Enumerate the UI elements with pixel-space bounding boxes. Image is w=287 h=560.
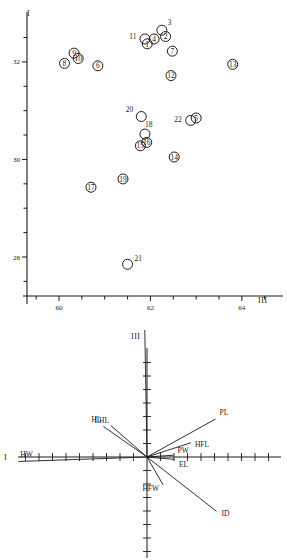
data-point: 22 [174, 115, 196, 125]
data-point-label: 4 [152, 35, 156, 44]
vector-label: ID [222, 509, 230, 518]
vector-axes [18, 348, 281, 558]
vector-line [103, 426, 147, 457]
vector-label: HFW [142, 484, 160, 493]
vector-line [111, 426, 147, 457]
data-point: 13 [228, 59, 238, 69]
scatter-y-tick-label: 30 [13, 156, 21, 164]
scatter-axes: 283032606264 [13, 12, 283, 312]
data-point-label: 14 [170, 153, 178, 162]
vector-line [18, 457, 147, 461]
vector-item: HW [18, 450, 147, 461]
scatter-points-group: 12345678910111213141516171819202122 [59, 18, 237, 269]
data-point-label: 21 [135, 254, 143, 263]
scatter-x-axis-label: III [258, 296, 268, 305]
data-point-label: 19 [119, 175, 127, 184]
vector-label: PL [220, 408, 229, 417]
vector-label: EL [179, 460, 189, 469]
vector-arrows-group: rFLPLHFLPWELHWHLLHLHFWID [18, 330, 230, 518]
data-point-label: 18 [145, 120, 153, 129]
data-point: 6 [93, 61, 103, 71]
vector-label: LHL [94, 416, 109, 425]
data-point-label: 17 [87, 183, 95, 192]
figure-root: 283032606264 123456789101112131415161718… [0, 0, 287, 560]
vector-label: HW [20, 450, 33, 459]
data-point-label: 6 [96, 61, 100, 70]
data-point: 5 [191, 113, 201, 123]
vector-plot-panel: rFLPLHFLPWELHWHLLHLHFWID III I [0, 330, 287, 560]
data-point-label: 11 [129, 32, 136, 41]
scatter-plot-panel: 283032606264 123456789101112131415161718… [0, 0, 287, 330]
data-point: 18 [140, 120, 153, 139]
data-point: 4 [149, 34, 159, 44]
vector-item: LHL [94, 416, 147, 457]
data-point: 14 [169, 152, 179, 162]
data-point-label: 3 [168, 18, 172, 27]
vector-y-axis-label: III [131, 332, 141, 341]
data-point: 8 [59, 58, 69, 68]
scatter-y-tick-label: 28 [13, 254, 21, 262]
data-point-label: 13 [229, 60, 237, 69]
data-point: 21 [123, 254, 143, 269]
scatter-y-axis-label: I [27, 9, 30, 18]
data-point-circle [123, 259, 133, 269]
data-point: 20 [126, 105, 147, 122]
data-point-label: 22 [174, 115, 182, 124]
data-point: 7 [167, 46, 177, 56]
data-point: 19 [118, 174, 128, 184]
scatter-y-tick-label: 32 [13, 58, 21, 66]
vector-label: HFL [195, 440, 210, 449]
data-point-label: 20 [126, 105, 134, 114]
vector-item: HFW [142, 457, 163, 493]
data-point-label: 10 [74, 54, 82, 63]
scatter-x-tick-label: 62 [147, 304, 155, 312]
data-point-circle [136, 112, 146, 122]
vector-x-axis-label: I [4, 453, 7, 462]
vector-item: ID [147, 457, 230, 518]
data-point-label: 12 [167, 71, 175, 80]
scatter-x-tick-label: 64 [238, 304, 246, 312]
data-point-label: 8 [63, 59, 67, 68]
data-point: 17 [86, 182, 96, 192]
scatter-x-tick-label: 60 [56, 304, 64, 312]
vector-label: PW [178, 446, 190, 455]
data-point: 10 [73, 53, 83, 63]
data-point: 12 [166, 71, 176, 81]
data-point-label: 7 [170, 47, 174, 56]
